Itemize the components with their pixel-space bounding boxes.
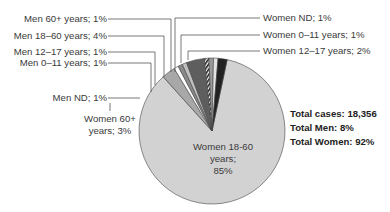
label-men-18-60: Men 18–60 years; 4% <box>14 30 108 41</box>
label-women-0-11: Women 0–11 years; 1% <box>263 29 365 40</box>
label-men-60: Men 60+ years; 1% <box>24 13 107 24</box>
label-women-60-line2: years; 3% <box>89 125 132 136</box>
label-women-18-60-line1: Women 18-60 <box>193 141 253 152</box>
pie-chart: Men 60+ years; 1% Men 18–60 years; 4% Me… <box>0 0 390 212</box>
label-women-12-17: Women 12–17 years; 2% <box>263 45 371 56</box>
total-women: Total Women: 92% <box>290 136 375 147</box>
label-men-12-17: Men 12–17 years; 1% <box>14 46 108 57</box>
total-men: Total Men: 8% <box>290 122 354 133</box>
label-women-18-60-line2: years; <box>210 153 236 164</box>
label-men-nd: Men ND; 1% <box>53 92 108 103</box>
label-men-0-11: Men 0–11 years; 1% <box>20 57 108 68</box>
pie-slices <box>139 58 285 204</box>
total-cases: Total cases: 18,356 <box>290 108 377 119</box>
label-women-18-60-line3: 85% <box>213 165 233 176</box>
label-women-nd: Women ND; 1% <box>263 12 332 23</box>
label-women-60-line1: Women 60+ <box>84 113 136 124</box>
